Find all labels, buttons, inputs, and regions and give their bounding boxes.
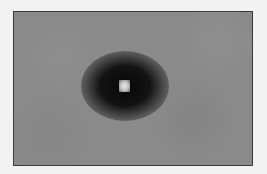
micrograph-frame [13, 11, 253, 166]
bright-core [119, 80, 130, 92]
